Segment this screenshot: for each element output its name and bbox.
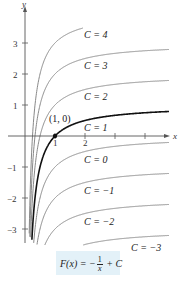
curve-label-cm2: C = −2 bbox=[84, 216, 114, 227]
curve-label-cm1: C = −1 bbox=[84, 185, 114, 196]
curve-label-c2: C = 2 bbox=[84, 91, 107, 102]
point-marker bbox=[53, 134, 57, 138]
curve-label-c4: C = 4 bbox=[84, 29, 107, 40]
curve-label-c1: C = 1 bbox=[84, 122, 107, 133]
formula: F(x) = −1x + C bbox=[60, 256, 122, 273]
formula-lhs: F(x) = − bbox=[60, 258, 96, 269]
y-tick-2: 2 bbox=[13, 70, 18, 80]
y-tick-neg1: −1 bbox=[7, 163, 17, 173]
x-axis-label: x bbox=[172, 131, 177, 141]
y-tick-neg3: −3 bbox=[7, 225, 17, 235]
x-tick-1: 1 bbox=[53, 138, 58, 148]
curve-label-cm3: C = −3 bbox=[131, 242, 161, 253]
formula-fraction: 1x bbox=[97, 256, 103, 273]
point-label: (1, 0) bbox=[49, 113, 71, 125]
x-tick-2: 2 bbox=[83, 138, 88, 148]
y-tick-neg2: −2 bbox=[7, 194, 17, 204]
y-tick-1: 1 bbox=[13, 101, 18, 111]
y-tick-3: 3 bbox=[13, 39, 18, 49]
x-axis-arrow-icon bbox=[164, 134, 170, 138]
curve-label-c3: C = 3 bbox=[84, 60, 107, 71]
curve-c4 bbox=[29, 28, 83, 233]
formula-denominator: x bbox=[97, 265, 103, 273]
chart-canvas: y x 1 2 3 2 1 −1 −2 −3 (1, 0) C = 4 C = … bbox=[0, 0, 192, 281]
y-axis-label: y bbox=[21, 0, 26, 9]
formula-rhs: + C bbox=[106, 258, 122, 269]
curve-label-c0: C = 0 bbox=[84, 154, 107, 165]
